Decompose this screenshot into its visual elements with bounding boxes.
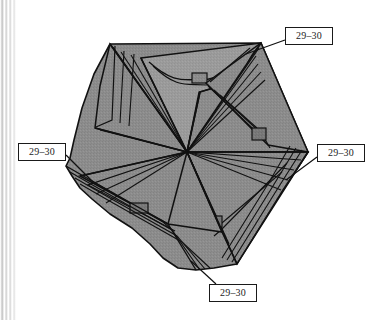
- structure-body: [66, 40, 317, 284]
- callout-label-right: 29–30: [328, 148, 354, 158]
- figure-canvas: 29–30 29–30 29–30 29–30: [0, 0, 379, 320]
- callout-box-right[interactable]: 29–30: [317, 144, 365, 162]
- callout-label-bottom: 29–30: [220, 288, 246, 298]
- panel-2-tab: [192, 73, 207, 83]
- callout-box-top-right[interactable]: 29–30: [285, 27, 333, 45]
- panel-3-tab: [252, 128, 266, 140]
- callout-box-bottom[interactable]: 29–30: [209, 284, 257, 302]
- callout-box-left[interactable]: 29–30: [18, 143, 66, 161]
- callout-label-left: 29–30: [29, 147, 55, 157]
- callout-label-top-right: 29–30: [296, 31, 322, 41]
